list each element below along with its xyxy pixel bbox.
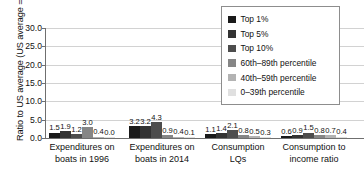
bar-value-label: 0.5 — [249, 128, 260, 136]
bar[interactable] — [303, 133, 314, 139]
bar-value-label: 0.1 — [184, 129, 195, 137]
bar-value-label: 1.2 — [71, 126, 82, 134]
legend-label: 40th–59th percentile — [241, 73, 317, 83]
legend-swatch-icon — [228, 45, 236, 53]
legend-item[interactable]: Top 1% — [228, 12, 333, 27]
x-axis-category-label: Expenditures onboats in 1996 — [39, 142, 125, 165]
y-tick-mark — [42, 28, 45, 29]
bar-slot[interactable]: 0.1 — [184, 28, 195, 138]
bar[interactable] — [227, 130, 238, 138]
bar[interactable] — [292, 135, 303, 138]
y-tick-label: 0.0 — [2, 133, 42, 143]
x-axis-category-label: Expenditures onboats in 2014 — [119, 142, 205, 165]
legend-label: Top 10% — [241, 43, 274, 53]
bar-slot[interactable]: 3.0 — [82, 28, 93, 138]
x-axis-category-label-line: boats in 2014 — [119, 154, 205, 166]
y-tick-mark — [42, 65, 45, 66]
bar[interactable] — [336, 137, 347, 138]
x-axis-category-label-line: Consumption to — [271, 142, 357, 154]
legend-item[interactable]: 0–39th percentile — [228, 85, 333, 100]
legend-label: 0–39th percentile — [241, 87, 305, 97]
bar-slot[interactable]: 1.1 — [205, 28, 216, 138]
x-axis-category-label-line: Expenditures on — [119, 142, 205, 154]
bar-value-label: 0.7 — [325, 127, 336, 135]
x-axis-category-label: Consumption toincome ratio — [271, 142, 357, 165]
legend-item[interactable]: Top 5% — [228, 27, 333, 42]
bar[interactable] — [314, 135, 325, 138]
bar-slot[interactable]: 4.3 — [151, 28, 162, 138]
y-tick-label: 30.0 — [2, 23, 42, 33]
bar[interactable] — [129, 126, 140, 138]
bar[interactable] — [71, 134, 82, 138]
bar[interactable] — [82, 127, 93, 138]
bar-slot[interactable]: 3.2 — [129, 28, 140, 138]
bar-value-label: 2.1 — [227, 122, 238, 130]
bar[interactable] — [140, 126, 151, 138]
bar-slot[interactable]: 0.4 — [173, 28, 184, 138]
bar[interactable] — [173, 137, 184, 138]
bar-slot[interactable]: 1.9 — [60, 28, 71, 138]
legend-label: 60th–89th percentile — [241, 58, 317, 68]
x-axis-category-label-line: Consumption — [195, 142, 281, 154]
bar[interactable] — [281, 136, 292, 138]
x-axis-category-label-line: boats in 1996 — [39, 154, 125, 166]
bar[interactable] — [49, 133, 60, 139]
legend-item[interactable]: 40th–59th percentile — [228, 70, 333, 85]
bar-value-label: 0.8 — [238, 127, 249, 135]
bar-value-label: 1.5 — [49, 124, 60, 132]
y-tick-mark — [42, 46, 45, 47]
bar-group: 1.51.91.23.00.40.0 — [49, 28, 115, 138]
x-axis-category-label: ConsumptionLQs — [195, 142, 281, 165]
bar[interactable] — [325, 135, 336, 138]
bar-slot[interactable]: 0.9 — [162, 28, 173, 138]
legend-swatch-icon — [228, 74, 236, 82]
bar-value-label: 0.4 — [336, 128, 347, 136]
bar[interactable] — [238, 135, 249, 138]
bar-group: 3.23.24.30.90.40.1 — [129, 28, 195, 138]
bar-value-label: 1.9 — [60, 123, 71, 131]
bar-value-label: 0.0 — [104, 129, 115, 137]
bar-slot[interactable]: 0.0 — [104, 28, 115, 138]
y-tick-mark — [42, 83, 45, 84]
y-tick-label: 25.0 — [2, 41, 42, 51]
bar[interactable] — [205, 134, 216, 138]
x-axis-category-label-line: LQs — [195, 154, 281, 166]
bar-value-label: 0.8 — [314, 127, 325, 135]
bar-value-label: 0.4 — [173, 128, 184, 136]
x-axis-category-label-line: income ratio — [271, 154, 357, 166]
bar-value-label: 1.4 — [216, 125, 227, 133]
legend-label: Top 1% — [241, 14, 269, 24]
bar-slot[interactable]: 1.2 — [71, 28, 82, 138]
bar[interactable] — [162, 135, 173, 138]
bar-slot[interactable]: 3.2 — [140, 28, 151, 138]
bar[interactable] — [184, 137, 195, 138]
bar-slot[interactable]: 1.5 — [49, 28, 60, 138]
bar[interactable] — [151, 122, 162, 138]
bar-value-label: 3.2 — [129, 118, 140, 126]
y-tick-mark — [42, 120, 45, 121]
bar[interactable] — [249, 136, 260, 138]
bar-value-label: 0.3 — [260, 129, 271, 137]
bar[interactable] — [104, 137, 115, 138]
bar[interactable] — [260, 137, 271, 138]
legend-swatch-icon — [228, 59, 236, 67]
bar-chart: Ratio to US average (US average = 1.0) 1… — [0, 0, 364, 182]
bar[interactable] — [93, 137, 104, 138]
y-tick-label: 20.0 — [2, 60, 42, 70]
legend-swatch-icon — [228, 16, 236, 24]
y-tick-label: 15.0 — [2, 78, 42, 88]
bar-value-label: 0.9 — [162, 127, 173, 135]
y-tick-label: 5.0 — [2, 115, 42, 125]
bar-value-label: 3.0 — [82, 119, 93, 127]
legend-item[interactable]: Top 10% — [228, 41, 333, 56]
legend-label: Top 5% — [241, 29, 269, 39]
y-tick-mark — [42, 101, 45, 102]
bar[interactable] — [60, 131, 71, 138]
bar-value-label: 1.5 — [303, 124, 314, 132]
bar-value-label: 0.9 — [292, 127, 303, 135]
legend-swatch-icon — [228, 89, 236, 97]
bar[interactable] — [216, 133, 227, 138]
bar-slot[interactable]: 0.4 — [93, 28, 104, 138]
y-tick-mark — [42, 138, 45, 139]
legend-item[interactable]: 60th–89th percentile — [228, 56, 333, 71]
